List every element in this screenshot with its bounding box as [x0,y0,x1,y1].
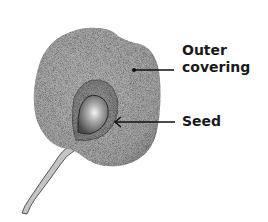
outer-covering-label-line1: Outer [182,42,250,59]
outer-covering-label-line2: covering [182,59,250,76]
seed-label: Seed [182,113,221,130]
stem [22,146,74,214]
outer-covering-label: Outer covering [182,42,250,76]
fruit-diagram [0,0,268,222]
